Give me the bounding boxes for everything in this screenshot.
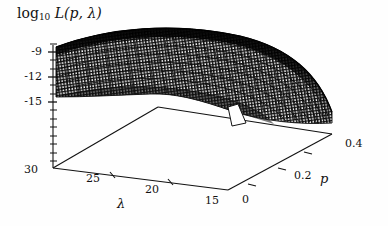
z-tick-label-minus12: -12 [16,71,42,82]
p-tick-label-0p4: 0.4 [345,138,363,149]
likelihood-surface [56,24,332,126]
p-axis-line [228,134,332,190]
lambda-tick-label-15: 15 [205,195,219,206]
z-tick-label-minus9: -9 [16,46,42,57]
p-axis-label: p [320,172,328,185]
lambda-axis-line [53,168,228,190]
lambda-axis-label: λ [117,197,125,210]
lambda-tick-label-25: 25 [86,173,100,184]
p-tick-label-0p2: 0.2 [294,170,312,181]
lambda-tick-label-30: 30 [24,164,38,175]
p-tick-label-0: 0 [242,194,249,205]
floor-edge-back-left [53,107,158,168]
lambda-axis-ticks [110,172,173,185]
lambda-tick-label-20: 20 [145,184,159,195]
surface-plot-figure: log10 L(p, λ) [0,0,388,226]
z-tick-label-minus15: -15 [16,96,42,107]
plot-canvas [0,0,388,226]
